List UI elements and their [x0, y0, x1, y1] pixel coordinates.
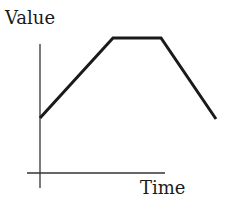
line-chart: Value Time — [0, 0, 233, 205]
x-axis-label: Time — [140, 179, 185, 197]
chart-canvas — [0, 0, 233, 205]
data-line — [40, 38, 216, 119]
y-axis-label: Value — [5, 9, 55, 27]
